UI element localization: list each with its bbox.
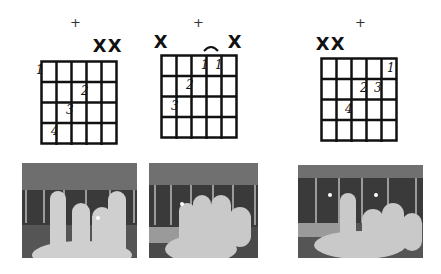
finger-number: 2 [360,82,368,94]
hand-photo-3 [298,165,423,258]
finger-number: 2 [186,79,194,91]
plus-symbol: + [355,16,366,29]
finger-number: 4 [345,103,353,115]
hand-on-fretboard-image [22,163,137,258]
hand-photo-2 [149,163,258,258]
hand-photo-1 [22,163,137,258]
hand-on-fretboard-image [149,163,258,258]
barre-arc-icon [203,44,219,52]
hand-on-fretboard-image [298,165,423,258]
finger-number: 2 [81,85,89,97]
muted-string-x-icon: X [331,36,345,53]
muted-string-x-icon: X [93,38,107,55]
muted-string-x-icon: X [316,36,330,53]
muted-string-x-icon: X [228,34,242,51]
finger-number: 1 [215,59,223,71]
finger-number: 1 [387,62,395,74]
finger-number: 3 [171,100,179,112]
plus-symbol: + [70,16,81,29]
finger-number: 1 [36,64,44,76]
finger-number: 3 [66,104,74,116]
finger-number: 4 [51,125,59,137]
plus-symbol: + [193,16,204,29]
finger-number: 1 [201,59,209,71]
fretboard-grid [160,54,238,140]
finger-number: 3 [374,82,382,94]
muted-string-x-icon: X [108,38,122,55]
muted-string-x-icon: X [154,34,168,51]
